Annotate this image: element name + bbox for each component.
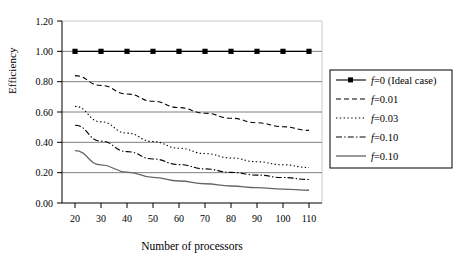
y-tick-label: 1.20: [36, 16, 54, 27]
chart-legend: f=0 (Ideal case) f=0.01 f=0.03 f=0.10 f=…: [330, 70, 452, 168]
y-tick-label: 1.00: [36, 46, 54, 57]
y-tick-label: 0.60: [36, 107, 54, 118]
y-tick-label: 0.20: [36, 167, 54, 178]
data-point-marker: [150, 49, 155, 54]
data-point-marker: [280, 49, 285, 54]
x-tick-label: 60: [174, 213, 184, 224]
legend-label: f=0 (Ideal case): [371, 75, 437, 87]
y-tick-label: 0.40: [36, 137, 54, 148]
x-tick-label: 110: [302, 213, 317, 224]
legend-label: f=0.01: [371, 94, 398, 105]
efficiency-line-chart: 1.20 1.00 0.80 0.60 0.40 0.20 0.00 20304…: [0, 0, 460, 269]
data-point-marker: [176, 49, 181, 54]
data-point-marker: [306, 49, 311, 54]
x-tick-label: 40: [122, 213, 132, 224]
data-point-marker: [124, 49, 129, 54]
data-point-marker: [98, 49, 103, 54]
x-tick-label: 50: [148, 213, 158, 224]
data-point-marker: [72, 49, 77, 54]
x-tick-label: 100: [276, 213, 291, 224]
legend-label: f=0.03: [371, 113, 398, 124]
legend-marker-square-icon: [348, 77, 353, 82]
x-tick-label: 20: [70, 213, 80, 224]
y-tick-label: 0.80: [36, 76, 54, 87]
data-point-marker: [254, 49, 259, 54]
x-tick-label: 70: [200, 213, 210, 224]
y-tick-label: 0.00: [36, 198, 54, 209]
x-tick-label: 30: [96, 213, 106, 224]
chart-figure: 1.20 1.00 0.80 0.60 0.40 0.20 0.00 20304…: [0, 0, 460, 269]
x-axis-title: Number of processors: [62, 240, 322, 252]
x-tick-label: 90: [252, 213, 262, 224]
x-tick-label: 80: [226, 213, 236, 224]
y-axis-title: Efficiency: [6, 74, 18, 94]
legend-label: f=0.10: [371, 151, 398, 162]
legend-label: f=0.10: [371, 132, 398, 143]
data-point-marker: [202, 49, 207, 54]
data-point-marker: [228, 49, 233, 54]
